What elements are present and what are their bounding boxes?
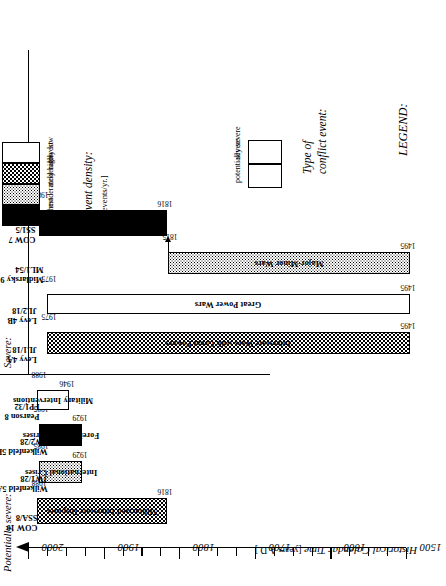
conflict-type-box-row [248, 140, 282, 188]
column-header-levy-4a: Levy 4AJL1/18 [7, 343, 37, 364]
column-source: Levy 4B [7, 314, 36, 324]
column-code: SSA/8 [7, 511, 38, 521]
axis-tick-label-1900: 1900 [102, 542, 154, 553]
column-header-levy-4b: Levy 4BJL2/18 [7, 304, 36, 325]
bar-start-year-1495-5: 1495 [400, 283, 415, 292]
bar-end-year-1975-5: 1975 [41, 274, 56, 283]
column-header-wilkenfeld-5b: Wilkenfeld 5BJW2/28 [0, 435, 47, 456]
axis-title-unit: [years A.D.] [255, 545, 302, 555]
conflict-event-timeline-figure: 150016001700180019002000 Historical Cale… [0, 0, 446, 586]
column-code: JW1/28 [0, 472, 48, 482]
column-code: JW2/28 [0, 435, 47, 445]
bar-end-year-1988-3: 1988 [31, 370, 46, 379]
column-source: Midlarsky 9 [0, 273, 43, 283]
column-header-pearson-8: Pearson 8FP1/32 [5, 400, 40, 421]
density-title: Event density: [82, 152, 94, 217]
axis-tick-label-1800: 1800 [178, 542, 230, 553]
axis-tick-label-2000: 2000 [27, 542, 79, 553]
density-unit: [events/yr.] [99, 176, 109, 214]
column-source: Pearson 8 [5, 410, 40, 420]
legend-title: LEGEND: [396, 103, 411, 156]
column-source: Wilkenfeld 5A [0, 482, 48, 492]
conflict-type-box-potentially-severe [248, 164, 282, 188]
axis-tick-1725 [236, 548, 237, 556]
column-header-wilkenfeld-5a: Wilkenfeld 5AJW1/28 [0, 472, 48, 493]
bar-start-year-1929-2: 1929 [72, 413, 87, 422]
column-code: ML1/54 [0, 263, 43, 273]
density-swatch-row [2, 142, 40, 226]
conflict-type-title-line1: Type of [300, 109, 315, 174]
column-source: COW 10 [7, 521, 38, 531]
column-code: JL1/18 [7, 343, 37, 353]
density-label-lowest: lowest [46, 142, 55, 163]
column-header-cow-7: COW 7SS1/5 [9, 223, 36, 244]
swatch-moderately-low [2, 163, 40, 184]
conflict-type-title: Type of conflict event: [300, 109, 330, 174]
bar-start-year-1495-6: 1495 [400, 241, 415, 250]
conflict-type-label-severe: severe [233, 139, 242, 159]
column-source: COW 7 [9, 233, 36, 243]
swatch-moderately-high [2, 184, 40, 205]
column-header-cow-10: COW 10SSA/8 [7, 511, 38, 532]
bar-label-great-power-wars: Great Power Wars [195, 300, 262, 309]
bar-label-interstate-wars: Interstate Wars [75, 219, 131, 228]
bar-start-year-1816-0: 1816 [158, 487, 173, 496]
group-heading-potentially-severe: Potentially severe: [2, 493, 13, 572]
conflict-type-title-line2: conflict event: [315, 109, 330, 174]
column-code: JL2/18 [7, 304, 36, 314]
bar-label-interstate-wars-with-great-powers: Interstate Wars with Great Powers [166, 339, 291, 348]
axis-title-main: Historical Calendar Time [304, 545, 417, 557]
bar-start-year-1929-1: 1929 [72, 450, 87, 459]
column-source: Levy 4A [7, 353, 37, 363]
axis-title: Historical Calendar Time [years A.D.] [255, 545, 418, 557]
swatch-lowest [2, 142, 40, 163]
column-source: Wilkenfeld 5B [0, 445, 47, 455]
connector-line-major-minor-to-interstate [168, 242, 169, 252]
column-code: FP1/32 [5, 400, 40, 410]
swatch-highest [2, 205, 40, 226]
bar-label-militarized-interstate-disputes: Militarized Interstate Disputes [47, 507, 157, 516]
bar-label-major-minor-wars: Major-Minor Wars [254, 259, 323, 268]
axis-tick-1925 [85, 548, 86, 556]
bar-start-year-1816-7: 1816 [158, 199, 173, 208]
connector-arrow-icon [165, 236, 171, 242]
axis-tick-1825 [160, 548, 161, 556]
conflict-type-box-severe [248, 140, 282, 164]
column-header-midlarsky-9: Midlarsky 9ML1/54 [0, 263, 43, 284]
bar-start-year-1495-4: 1495 [400, 321, 415, 330]
bar-start-year-1946-3: 1946 [59, 379, 74, 388]
